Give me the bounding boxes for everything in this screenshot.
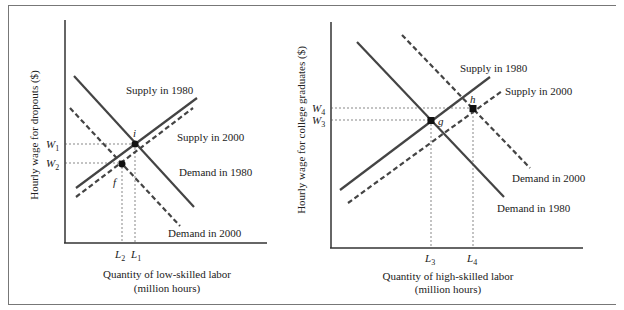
point-i: [132, 141, 139, 148]
label-f: f: [113, 176, 118, 188]
left-x-label: Quantity of low-skilled labor: [103, 268, 231, 280]
figure-svg: i f Supply in 1980 Supply in 2000 Demand…: [0, 0, 624, 310]
point-h: [470, 105, 477, 112]
point-f: [119, 161, 126, 168]
point-g: [428, 117, 435, 124]
left-label-demand-2000: Demand in 2000: [168, 227, 242, 239]
right-y-label: Hourly wage for college graduates ($): [295, 46, 308, 214]
right-x-label-sub: (million hours): [415, 283, 482, 296]
tick-w2: W2: [46, 157, 59, 172]
right-supply-1980: [340, 77, 490, 190]
left-x-label-sub: (million hours): [134, 282, 201, 295]
tick-l2: L2: [114, 248, 125, 263]
tick-l4: L4: [466, 252, 477, 267]
right-label-demand-2000: Demand in 2000: [512, 172, 586, 184]
label-h: h: [470, 93, 476, 105]
right-demand-2000: [402, 35, 530, 168]
right-x-label: Quantity of high-skilled labor: [382, 270, 513, 282]
left-supply-2000: [76, 108, 193, 197]
right-label-supply-2000: Supply in 2000: [505, 85, 573, 97]
left-label-supply-1980: Supply in 1980: [126, 84, 194, 96]
left-label-supply-2000: Supply in 2000: [177, 131, 245, 143]
tick-w1: W1: [46, 138, 59, 153]
label-g: g: [438, 115, 444, 127]
tick-l3: L3: [424, 252, 435, 267]
right-chart: g h Supply in 1980 Supply in 2000 Demand…: [295, 22, 586, 296]
left-label-demand-1980: Demand in 1980: [179, 166, 253, 178]
tick-l1: L1: [130, 248, 141, 263]
left-chart: i f Supply in 1980 Supply in 2000 Demand…: [28, 20, 267, 295]
right-label-supply-1980: Supply in 1980: [460, 62, 528, 74]
label-i: i: [133, 127, 136, 139]
right-label-demand-1980: Demand in 1980: [497, 202, 571, 214]
left-y-label: Hourly wage for dropouts ($): [28, 70, 41, 200]
left-demand-2000: [70, 108, 180, 226]
